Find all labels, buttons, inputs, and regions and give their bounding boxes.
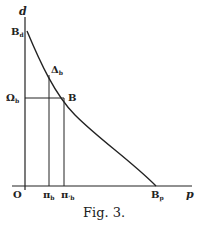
label-pi-prime-b: π'b (61, 190, 74, 201)
label-b-p: Bp (151, 190, 164, 201)
demand-curve (27, 31, 156, 186)
label-b: B (68, 93, 76, 103)
diagram-canvas (0, 0, 204, 227)
figure-caption: Fig. 3. (83, 206, 125, 219)
x-axis-label: p (186, 189, 194, 200)
label-delta-b: Δb (51, 65, 63, 76)
label-b-d: Bd (11, 27, 24, 38)
label-pi-b: πb (43, 190, 55, 201)
label-omega-b: Ωb (6, 93, 19, 104)
y-axis-label: d (19, 6, 27, 17)
origin-label: O (13, 190, 22, 200)
figure-3: d Bd Δb B Ωb O πb π'b Bp p Fig. 3. (0, 0, 204, 227)
